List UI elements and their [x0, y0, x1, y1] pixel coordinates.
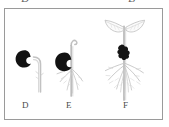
stage-label-f: F	[123, 101, 128, 110]
stage-e-drawing	[55, 40, 82, 96]
stage-label-e: E	[66, 101, 72, 110]
germination-figure: D B	[0, 0, 169, 127]
leaf-left	[105, 20, 124, 32]
stage-label-d: D	[22, 101, 29, 110]
stage-d-drawing	[16, 50, 44, 92]
leaf-right	[126, 20, 145, 32]
stage-f-drawing	[105, 20, 145, 100]
